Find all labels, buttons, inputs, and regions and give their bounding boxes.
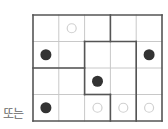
- hollow-circle: [145, 103, 154, 112]
- filled-circle: [40, 102, 51, 113]
- hollow-circle: [67, 24, 76, 33]
- puzzle-grid: [0, 0, 168, 129]
- filled-circle: [144, 49, 155, 60]
- hollow-circle: [93, 103, 102, 112]
- filled-circle: [92, 76, 103, 87]
- hollow-circle: [119, 103, 128, 112]
- filled-circle: [40, 49, 51, 60]
